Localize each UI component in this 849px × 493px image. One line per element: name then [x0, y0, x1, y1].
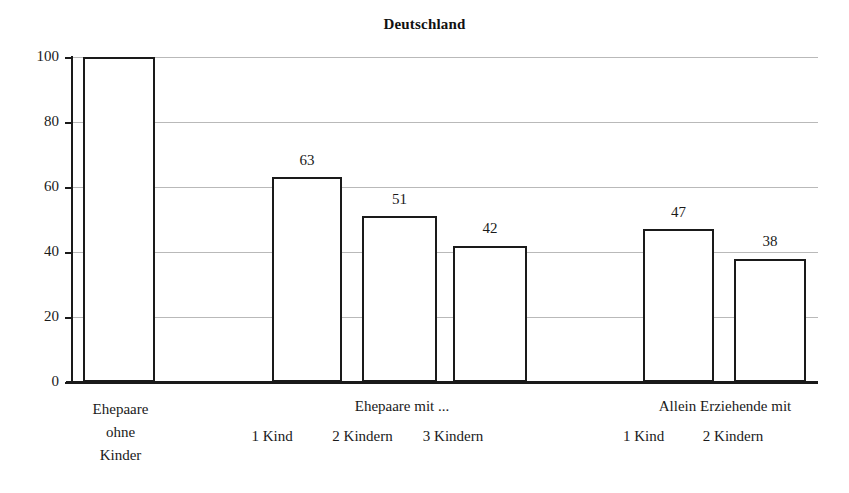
y-tick-mark-40 — [65, 252, 73, 254]
y-tick-label-40: 40 — [0, 243, 59, 260]
x-axis-line — [66, 381, 818, 384]
y-tick-label-80: 80 — [0, 113, 59, 130]
bar-value-ehepaare-2-kindern: 51 — [362, 191, 437, 208]
x-cat-label-ehepaare-3-kindern: 3 Kindern — [416, 428, 490, 445]
x-group-label-allein-erziehende-mit: Allein Erziehende mit — [620, 398, 830, 415]
x-label-ehepaare-ohne-kinder: Ehepaare ohne Kinder — [58, 398, 183, 467]
gridline-100 — [72, 57, 818, 58]
x-cat-label-allein-1-kind: 1 Kind — [608, 428, 679, 445]
x-cat-label-ehepaare-1-kind: 1 Kind — [237, 428, 307, 445]
bar-ehepaare-2-kindern — [362, 216, 437, 382]
y-tick-mark-20 — [65, 317, 73, 319]
gridline-80 — [72, 122, 818, 123]
x-label-line-1: Ehepaare — [58, 398, 183, 421]
chart-container: Deutschland 63 51 42 47 38 100 80 60 40 … — [0, 0, 849, 493]
bar-allein-2-kindern — [734, 259, 806, 383]
gridline-60 — [72, 187, 818, 188]
bar-value-ehepaare-1-kind: 63 — [272, 152, 342, 169]
plot-area: 63 51 42 47 38 — [72, 57, 818, 382]
y-tick-mark-60 — [65, 187, 73, 189]
y-tick-label-20: 20 — [0, 308, 59, 325]
bar-value-allein-2-kindern: 38 — [734, 233, 806, 250]
bar-ehepaare-ohne-kinder — [83, 57, 155, 382]
x-cat-label-ehepaare-2-kindern: 2 Kindern — [325, 428, 400, 445]
bar-value-allein-1-kind: 47 — [643, 204, 714, 221]
y-tick-label-100: 100 — [0, 48, 59, 65]
chart-title: Deutschland — [0, 16, 849, 33]
y-axis-line — [71, 56, 73, 384]
y-tick-label-60: 60 — [0, 178, 59, 195]
x-cat-label-allein-2-kindern: 2 Kindern — [697, 428, 769, 445]
x-group-label-ehepaare-mit: Ehepaare mit ... — [312, 398, 492, 415]
x-label-line-3: Kinder — [58, 444, 183, 467]
y-tick-mark-100 — [65, 57, 73, 59]
x-label-line-2: ohne — [58, 421, 183, 444]
bar-allein-1-kind — [643, 229, 714, 382]
bar-value-ehepaare-3-kindern: 42 — [453, 220, 527, 237]
bar-ehepaare-1-kind — [272, 177, 342, 382]
y-tick-label-0: 0 — [0, 373, 59, 390]
y-tick-mark-80 — [65, 122, 73, 124]
bar-ehepaare-3-kindern — [453, 246, 527, 383]
